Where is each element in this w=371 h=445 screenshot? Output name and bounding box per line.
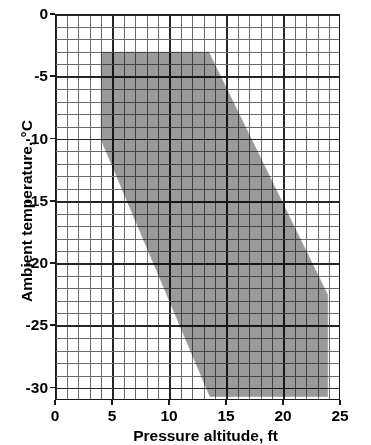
x-axis-tick — [168, 400, 170, 405]
x-axis-tick — [282, 400, 284, 405]
y-axis-tick — [50, 387, 55, 389]
icing-envelope-region — [56, 15, 339, 399]
plot-area — [55, 14, 340, 400]
icing-envelope-polygon — [101, 52, 327, 396]
x-axis-tick-label: 20 — [258, 408, 308, 424]
y-axis-tick-label: -5 — [34, 68, 48, 84]
y-axis-tick-label: 0 — [39, 6, 48, 22]
x-axis-tick — [339, 400, 341, 405]
x-axis-tick — [225, 400, 227, 405]
y-axis-tick-label: -30 — [26, 380, 48, 396]
y-axis-tick — [50, 324, 55, 326]
x-axis-tick-label: 15 — [201, 408, 251, 424]
y-axis-tick — [50, 138, 55, 140]
y-axis-tick — [50, 75, 55, 77]
y-axis-tick — [50, 262, 55, 264]
y-axis-title: Ambient temperature, °C — [18, 120, 36, 302]
x-axis-tick — [54, 400, 56, 405]
y-axis-tick-label: -25 — [26, 317, 48, 333]
y-axis-tick — [50, 13, 55, 15]
x-axis-tick-label: 0 — [30, 408, 80, 424]
y-axis-tick — [50, 200, 55, 202]
x-axis-tick-label: 5 — [87, 408, 137, 424]
x-axis-tick-label: 10 — [144, 408, 194, 424]
x-axis-tick-label: 25 — [315, 408, 365, 424]
x-axis-title: Pressure altitude, ft — [20, 427, 371, 445]
x-axis-tick — [111, 400, 113, 405]
